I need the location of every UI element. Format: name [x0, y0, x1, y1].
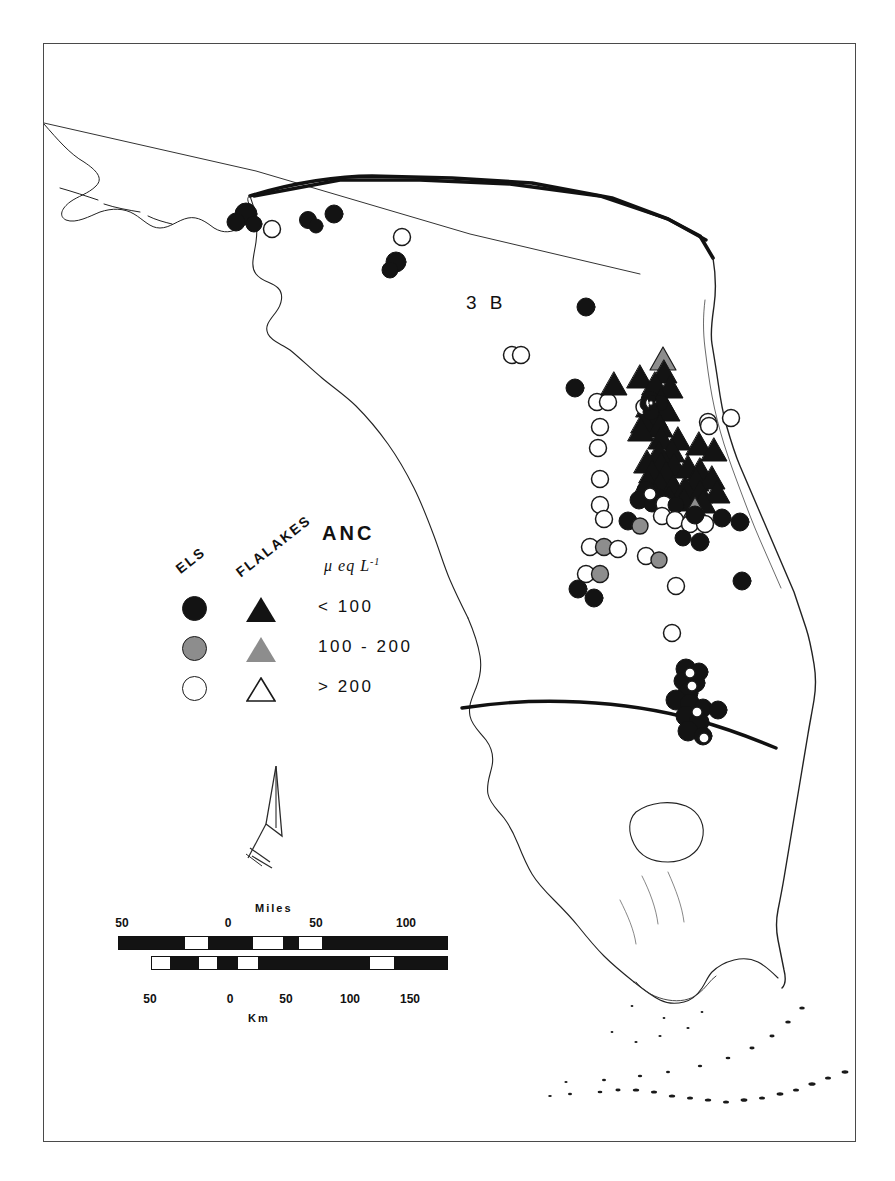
scale-tick-km-1: 0 [227, 992, 234, 1006]
scale-ticks-km: 50 0 50 100 150 [118, 992, 448, 1008]
scale-tick-km-2: 50 [279, 992, 292, 1006]
legend-swatch-circle-filled [182, 596, 207, 621]
legend-row-lt100: < 100 [168, 594, 418, 626]
data-points-cluster-south [666, 659, 727, 745]
scale-tick-km-3: 100 [340, 992, 360, 1006]
legend-label-lt100: < 100 [318, 597, 374, 617]
caption-sliver [60, 1163, 850, 1177]
map-label-3b: 3 B [466, 292, 507, 314]
scale-bar-km [151, 956, 448, 970]
scale-ticks-miles: 50 0 50 100 [118, 916, 448, 932]
legend: ELS FLALAKES ANC μ eq L-1 < 100 100 - 20… [168, 516, 418, 706]
state-line-north [44, 123, 640, 274]
data-points-panhandle [227, 203, 411, 278]
data-points-cluster-north [601, 347, 683, 441]
legend-header-els: ELS [173, 543, 209, 576]
scale-tick-km-4: 150 [400, 992, 420, 1006]
legend-swatch-triangle-filled [246, 597, 276, 622]
legend-label-gt200: > 200 [318, 677, 374, 697]
scale-tick-miles-2: 50 [309, 916, 322, 930]
atlantic-coast [711, 258, 815, 988]
scale-bar-group: Miles 50 0 50 100 50 0 50 100 150 Km [118, 900, 448, 1032]
scale-tick-miles-3: 100 [396, 916, 416, 930]
scale-tick-miles-1: 0 [225, 916, 232, 930]
panhandle-barrier-islands [60, 188, 172, 224]
ecoregion-boundary-south [462, 701, 776, 748]
legend-title-anc: ANC [322, 522, 374, 545]
gulf-coast [468, 618, 634, 982]
legend-swatch-triangle-open [246, 677, 276, 702]
legend-swatch-circle-gray [182, 636, 207, 661]
florida-keys [548, 1005, 882, 1104]
ecoregion-boundary-north [254, 180, 706, 240]
legend-units-exponent: -1 [370, 556, 380, 567]
panhandle-coast [44, 124, 251, 232]
everglades-lines [620, 872, 684, 944]
scale-tick-miles-0: 50 [115, 916, 128, 930]
legend-swatch-circle-open [182, 676, 207, 701]
scale-tick-km-0: 50 [143, 992, 156, 1006]
scale-bar-miles [118, 936, 448, 950]
data-points-cluster-central [619, 426, 751, 590]
legend-header-flalakes: FLALAKES [233, 512, 314, 580]
north-arrow-icon [236, 762, 306, 870]
legend-row-100-200: 100 - 200 [168, 634, 418, 666]
legend-units-text: μ eq L [324, 557, 370, 574]
legend-label-100-200: 100 - 200 [318, 637, 412, 657]
figure-plate: 3 B ELS FLALAKES ANC μ eq L-1 < 100 100 … [0, 0, 895, 1181]
scale-title-miles: Miles [255, 902, 293, 914]
legend-row-gt200: > 200 [168, 674, 418, 706]
cape-sable [636, 976, 716, 1001]
scale-title-km: Km [248, 1012, 270, 1024]
florida-outline-thick [250, 176, 713, 258]
lake-okeechobee [630, 803, 703, 862]
legend-units: μ eq L-1 [324, 556, 380, 575]
legend-swatch-triangle-gray [246, 637, 276, 662]
